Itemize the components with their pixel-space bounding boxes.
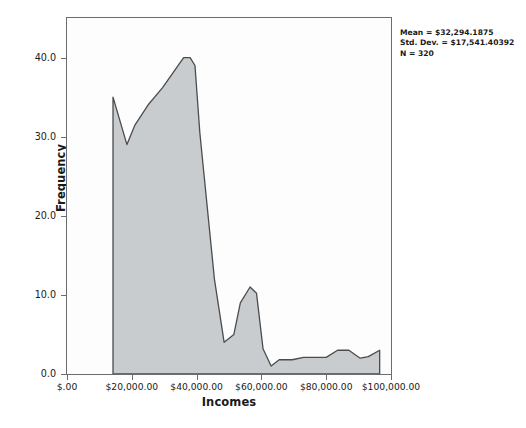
y-tick-label: 40.0 bbox=[14, 52, 56, 63]
y-tick-label: 20.0 bbox=[14, 210, 56, 221]
statistics-annotation: Mean = $32,294.1875 Std. Dev. = $17,541.… bbox=[400, 28, 520, 59]
x-tick-mark bbox=[197, 375, 198, 380]
x-tick-mark bbox=[391, 375, 392, 380]
stat-n: N = 320 bbox=[400, 49, 520, 59]
y-tick-label: 10.0 bbox=[14, 289, 56, 300]
histogram-figure: Frequency 0.010.020.030.040.0 $.00$20,00… bbox=[0, 0, 526, 428]
x-axis-title: Incomes bbox=[66, 395, 392, 409]
stat-std-dev: Std. Dev. = $17,541.40392 bbox=[400, 38, 520, 48]
x-tick-mark bbox=[132, 375, 133, 380]
frequency-polygon bbox=[67, 18, 391, 374]
area-polygon-shape bbox=[113, 58, 380, 374]
y-tick-label: 0.0 bbox=[14, 368, 56, 379]
plot-area bbox=[66, 17, 392, 375]
stat-mean: Mean = $32,294.1875 bbox=[400, 28, 520, 38]
x-tick-mark bbox=[326, 375, 327, 380]
x-tick-mark bbox=[261, 375, 262, 380]
x-tick-mark bbox=[67, 375, 68, 380]
y-tick-label: 30.0 bbox=[14, 131, 56, 142]
x-tick-label: $100,000.00 bbox=[346, 381, 436, 392]
